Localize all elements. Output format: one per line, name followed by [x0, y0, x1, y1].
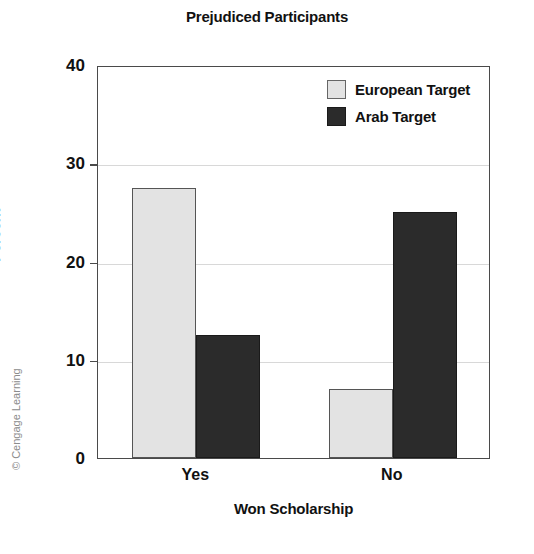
y-tick-label: 30: [25, 154, 85, 174]
bar: [329, 389, 393, 458]
bar: [393, 212, 457, 458]
y-tick-mark: [90, 263, 97, 265]
gridline: [98, 165, 489, 166]
y-axis-label: Percent: [0, 208, 3, 262]
chart-title: Prejudiced Participants: [0, 8, 534, 25]
legend-label: Arab Target: [355, 108, 436, 125]
x-tick-label: Yes: [135, 466, 255, 484]
y-tick-label: 20: [25, 253, 85, 273]
y-tick-label: 40: [25, 56, 85, 76]
bar-chart-figure: Prejudiced Participants Percent 01020304…: [0, 0, 534, 554]
y-tick-label: 0: [25, 449, 85, 469]
legend-entry: Arab Target: [327, 103, 470, 130]
chart-legend: European TargetArab Target: [327, 76, 470, 130]
y-tick-mark: [90, 164, 97, 166]
bar: [132, 188, 196, 458]
legend-entry: European Target: [327, 76, 470, 103]
x-axis-label: Won Scholarship: [97, 500, 490, 517]
y-tick-label: 10: [25, 351, 85, 371]
y-tick-mark: [90, 361, 97, 363]
bar: [196, 335, 260, 458]
copyright-watermark: © Cengage Learning: [10, 368, 22, 470]
legend-label: European Target: [355, 81, 470, 98]
x-tick-label: No: [332, 466, 452, 484]
legend-swatch-icon: [327, 107, 346, 126]
legend-swatch-icon: [327, 80, 346, 99]
